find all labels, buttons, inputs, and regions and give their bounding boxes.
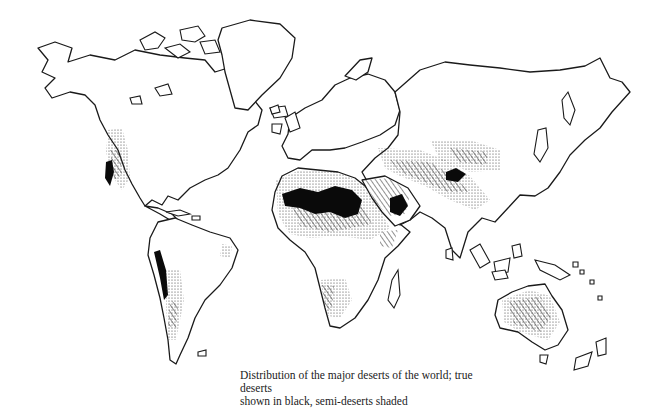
australia [495, 284, 568, 364]
new-zealand [574, 338, 606, 370]
south-america [148, 218, 238, 364]
caption-line-2: shown in black, semi-deserts shaded [240, 395, 500, 408]
europe [270, 58, 400, 160]
north-america [38, 20, 295, 222]
caption-line-1: Distribution of the major deserts of the… [240, 369, 500, 395]
figure-caption: Distribution of the major deserts of the… [240, 369, 500, 408]
